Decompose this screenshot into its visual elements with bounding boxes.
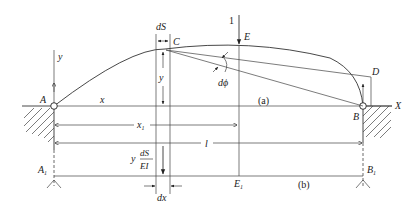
- label-d: D: [371, 66, 380, 77]
- label-load-den: EI: [139, 161, 149, 171]
- y-axis-label: y: [57, 51, 63, 62]
- label-x-axis: X: [394, 100, 402, 111]
- label-load: 1: [229, 15, 234, 26]
- support-b: [363, 106, 392, 143]
- label-x: x: [99, 94, 105, 105]
- hinge-a: [51, 103, 58, 110]
- arch-diagram: y A B X x (a) dS C y D dϕ 1 E x1 l A1 B1: [0, 0, 418, 208]
- label-load-y: y: [130, 153, 136, 164]
- label-b1: B1: [367, 164, 376, 176]
- label-part-b: (b): [298, 179, 310, 191]
- label-ds: dS: [156, 21, 166, 32]
- label-dphi: dϕ: [218, 77, 228, 88]
- label-load-num: dS: [140, 148, 150, 158]
- support-a: [22, 106, 54, 150]
- label-l: l: [205, 138, 208, 149]
- label-y-dim: y: [158, 72, 164, 83]
- label-dx: dx: [157, 192, 167, 203]
- label-b: B: [353, 111, 359, 122]
- label-a: A: [39, 94, 47, 105]
- label-c: C: [173, 36, 180, 47]
- label-e: E: [243, 31, 250, 42]
- label-a1: A1: [37, 164, 47, 176]
- label-part-a: (a): [258, 95, 269, 107]
- label-e1: E1: [233, 178, 243, 190]
